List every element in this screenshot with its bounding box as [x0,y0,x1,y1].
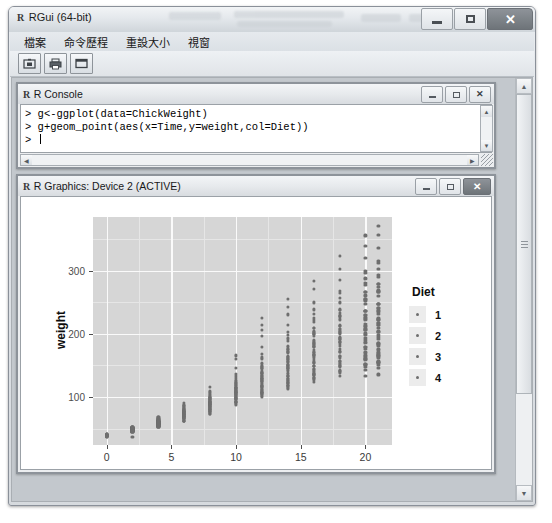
mdi-vertical-scrollbar[interactable]: ▲ ▼ [515,78,532,501]
console-title: R Console [34,88,83,100]
plot-panel [93,217,392,445]
graphics-titlebar[interactable]: R R Graphics: Device 2 (ACTIVE) ✕ [18,176,494,196]
toolbar-open-button[interactable] [18,53,41,74]
data-point [209,386,212,389]
y-axis-tick-mark [89,271,93,272]
y-axis-title: weight [54,300,68,360]
maximize-icon [453,92,460,98]
legend-point-icon [416,313,419,316]
console-minimize-button[interactable] [421,86,443,103]
menu-item-file[interactable]: 檔案 [22,33,48,51]
data-point [312,312,315,315]
toolbar [10,51,534,77]
legend-key [409,369,426,386]
scan-artifact-1 [169,12,221,20]
data-point [338,374,341,377]
graphics-minimize-button[interactable] [415,178,437,195]
gridline-minor-horizontal [93,302,392,303]
maximize-button[interactable] [454,8,486,30]
text-caret [40,134,41,144]
graphics-close-button[interactable]: ✕ [463,178,491,195]
minimize-icon [423,188,430,190]
data-point [260,324,263,327]
console-text-area[interactable]: > g<-ggplot(data=ChickWeight) > g+geom_p… [20,104,492,153]
maximize-icon [447,184,454,190]
gridline-minor-vertical [333,217,334,445]
x-axis-tick-label: 15 [295,451,307,463]
main-titlebar[interactable]: R RGui (64-bit) ✕ [9,7,535,32]
screenshot-root: R RGui (64-bit) ✕ 檔案 命令歷程 重設大小 視窗 [0,0,552,523]
graphics-maximize-button[interactable] [439,178,461,195]
data-point [377,295,380,298]
data-point [260,334,263,337]
menu-item-history[interactable]: 命令歷程 [62,33,110,51]
close-button[interactable]: ✕ [487,8,533,30]
legend-key [409,327,426,344]
data-point [338,356,341,359]
gridline-major-horizontal [93,397,392,398]
resize-grip[interactable] [481,154,493,166]
data-point [312,301,315,304]
x-axis-tick-label: 0 [104,451,110,463]
graphics-canvas[interactable]: 100200300 05101520 Time weight Diet 1234 [20,196,492,470]
toolbar-window-button[interactable] [70,53,93,74]
data-point [377,344,380,347]
data-point [286,340,289,343]
gridline-major-horizontal [93,334,392,335]
y-axis-tick-label: 100 [45,392,85,403]
gridline-minor-vertical [204,217,205,445]
scroll-up-icon[interactable]: ▲ [481,106,492,117]
x-axis-tick-mark [171,445,172,449]
legend-point-icon [416,376,419,379]
scroll-up-icon[interactable]: ▲ [516,78,532,94]
mdi-client-area: R R Console ✕ > g<-ggplot(data=ChickWeig… [11,77,533,502]
x-axis-tick-mark [107,445,108,449]
scroll-down-icon[interactable]: ▼ [516,485,532,501]
x-axis-tick-mark [236,445,237,449]
data-point [312,308,315,311]
close-icon: ✕ [476,90,484,99]
legend-entries: 1234 [409,306,441,386]
close-icon: ✕ [473,182,481,192]
console-close-button[interactable]: ✕ [469,86,491,103]
data-point [338,318,341,321]
minimize-button[interactable] [421,8,453,30]
data-point [260,316,263,319]
y-axis-tick-label: 300 [45,265,85,276]
console-prompt: > [25,134,38,146]
console-horizontal-scrollbar[interactable]: ◀ ▶ [20,154,479,166]
menu-item-window[interactable]: 視窗 [186,33,212,51]
scan-artifact-3 [237,21,332,27]
console-vertical-scrollbar[interactable]: ▲ ▼ [480,105,493,152]
data-point [286,297,289,300]
legend-entry: 1 [409,306,441,323]
data-point [377,367,380,370]
console-maximize-button[interactable] [445,86,467,103]
graphics-window-controls: ✕ [415,178,491,195]
ggplot-scatter-chart: 100200300 05101520 Time weight Diet 1234 [21,197,491,469]
legend-entry: 3 [409,348,441,365]
console-prompt-line: > [25,134,41,147]
scrollbar-thumb[interactable] [516,94,532,394]
gridline-minor-horizontal [93,429,392,430]
scan-artifact-4 [361,14,401,22]
data-point [286,324,289,327]
x-axis-tick-label: 10 [230,451,242,463]
legend-entry: 2 [409,327,441,344]
legend-key [409,306,426,323]
console-titlebar[interactable]: R R Console ✕ [18,84,494,104]
console-line-2: > g+geom_point(aes(x=Time,y=weight,col=D… [25,121,309,134]
r-logo-icon: R [23,89,30,100]
rgui-main-window: R RGui (64-bit) ✕ 檔案 命令歷程 重設大小 視窗 [8,6,536,506]
data-point [312,327,315,330]
scroll-left-icon[interactable]: ◀ [21,155,32,165]
toolbar-print-button[interactable] [44,53,67,74]
r-logo-icon: R [23,181,30,192]
data-point [377,283,380,286]
x-axis-tick-label: 5 [168,451,174,463]
scroll-right-icon[interactable]: ▶ [467,155,478,165]
scroll-down-icon[interactable]: ▼ [481,140,492,151]
menu-item-resize[interactable]: 重設大小 [124,33,172,51]
y-axis-tick-mark [89,334,93,335]
graphics-title: R Graphics: Device 2 (ACTIVE) [34,180,181,192]
